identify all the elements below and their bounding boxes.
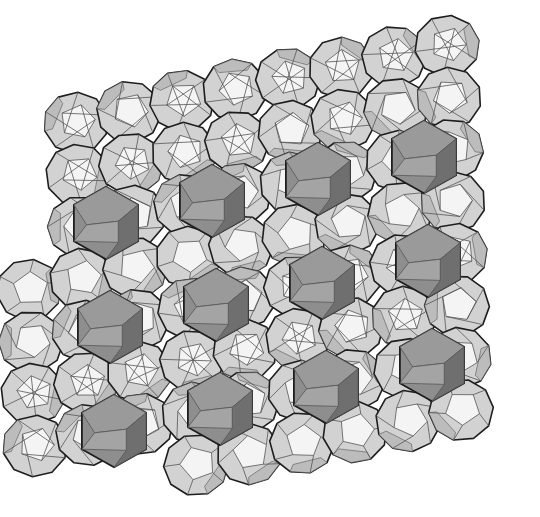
face-edge [263,464,279,465]
foam-structure-illustration [0,0,540,517]
foam-figure [0,0,540,517]
cell-side-face [214,59,252,72]
cell-side-face [0,324,11,360]
cell-side-face [48,209,61,245]
